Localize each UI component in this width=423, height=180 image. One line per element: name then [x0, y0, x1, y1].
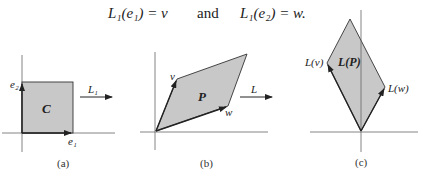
- lw-label: L(w): [387, 82, 409, 95]
- caption-a: (a): [57, 157, 70, 170]
- e2-label: e₂: [10, 78, 19, 90]
- panel-c: L(v) L(w) L(P) (c): [304, 10, 418, 169]
- lv-label: L(v): [304, 56, 324, 69]
- caption-b: (b): [200, 157, 213, 170]
- map-l1-label: L₁: [87, 83, 98, 95]
- linear-map-diagram: e₂ e₁ C L₁ (a) v w P L (b) L(v) L(w) L(P…: [0, 0, 423, 180]
- v-label: v: [170, 70, 175, 82]
- region-p-label: P: [198, 89, 207, 104]
- map-l-label: L: [250, 83, 257, 95]
- caption-c: (c): [355, 156, 368, 169]
- panel-b: v w P L (b): [140, 52, 272, 170]
- region-c-label: C: [42, 101, 51, 116]
- panel-a: e₂ e₁ C L₁ (a): [2, 55, 115, 170]
- image-parallelogram-lp: [327, 19, 385, 131]
- w-label: w: [225, 106, 233, 118]
- region-lp-label: L(P): [337, 55, 361, 69]
- e1-label: e₁: [68, 135, 77, 147]
